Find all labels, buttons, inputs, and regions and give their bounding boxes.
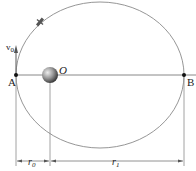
planet-o (42, 67, 58, 83)
arrowhead-r0-right (44, 160, 49, 163)
label-r1: r1 (112, 156, 119, 169)
label-v0: v0 (6, 42, 15, 54)
arrowhead-r1-right (178, 160, 183, 163)
point-b (182, 73, 186, 77)
arrowhead-r0-left (17, 160, 22, 163)
label-a: A (8, 76, 16, 88)
arrowhead-r1-left (51, 160, 56, 163)
satellite-icon (34, 16, 46, 28)
label-b: B (187, 76, 194, 88)
orbit-diagram: A B O v0 r0 r1 (0, 0, 196, 171)
velocity-arrowhead-icon (14, 45, 18, 53)
label-o: O (59, 64, 67, 76)
label-r0: r0 (28, 156, 36, 169)
